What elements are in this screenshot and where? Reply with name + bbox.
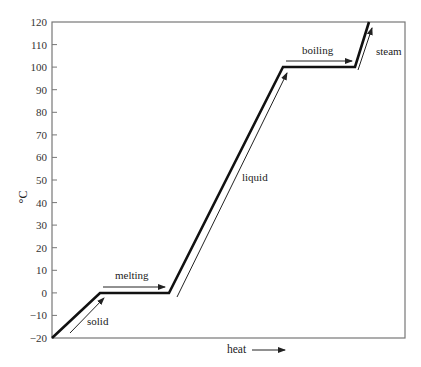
- heating-curve-line: [52, 22, 369, 338]
- y-tick-label: 30: [36, 219, 48, 231]
- label-boiling: boiling: [302, 44, 334, 56]
- y-tick-label: 0: [42, 287, 48, 299]
- y-tick-label: 60: [36, 151, 48, 163]
- heating-curve-chart: 120 110 100 90 80 70 60 50 40 30 20 10 0…: [0, 0, 421, 367]
- y-tick-label: −20: [30, 332, 48, 344]
- annotation-arrows: [70, 28, 372, 333]
- y-tick-label: 80: [36, 106, 48, 118]
- y-tick-label: 100: [31, 61, 48, 73]
- y-tick-label: 110: [31, 39, 48, 51]
- label-melting: melting: [115, 269, 149, 281]
- y-axis-title: °C: [16, 191, 30, 204]
- y-tick-label: −10: [30, 309, 48, 321]
- label-liquid: liquid: [242, 171, 268, 183]
- y-tick-label: 70: [36, 129, 48, 141]
- y-tick-label: 90: [36, 84, 48, 96]
- x-axis-title: heat: [227, 343, 247, 355]
- y-tick-label: 10: [36, 264, 48, 276]
- label-steam: steam: [376, 45, 402, 57]
- y-tick-label: 40: [36, 197, 48, 209]
- plot-frame: [52, 22, 405, 338]
- liquid-arrow: [177, 73, 287, 297]
- y-axis: 120 110 100 90 80 70 60 50 40 30 20 10 0…: [30, 16, 57, 344]
- y-tick-label: 120: [31, 16, 48, 28]
- y-tick-label: 20: [36, 242, 48, 254]
- label-solid: solid: [87, 315, 109, 327]
- y-tick-label: 50: [36, 174, 48, 186]
